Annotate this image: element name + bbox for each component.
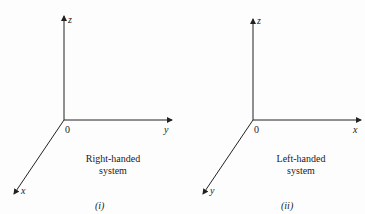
caption-line1: Left-handed bbox=[261, 153, 341, 165]
origin-label-right: 0 bbox=[254, 124, 259, 135]
caption-left-handed: Left-handed system bbox=[261, 153, 341, 177]
x-axis-label-left: x bbox=[21, 185, 25, 196]
caption-line2: system bbox=[261, 165, 341, 177]
z-axis-label-left: z bbox=[68, 14, 72, 25]
x-axis-label-right: x bbox=[353, 124, 357, 135]
origin-label-left: 0 bbox=[65, 124, 70, 135]
sublabel-i: (i) bbox=[95, 200, 104, 211]
caption-right-handed: Right-handed system bbox=[73, 153, 153, 177]
sublabel-ii: (ii) bbox=[281, 200, 293, 211]
caption-line1: Right-handed bbox=[73, 153, 153, 165]
y-axis-label-left: y bbox=[164, 124, 168, 135]
axes-drawing bbox=[0, 0, 365, 214]
x-axis-left bbox=[14, 120, 64, 194]
y-axis-label-right: y bbox=[210, 185, 214, 196]
coordinate-systems-figure: z y x 0 Right-handed system (i) z x y 0 … bbox=[0, 0, 365, 214]
caption-line2: system bbox=[73, 165, 153, 177]
y-axis-right bbox=[203, 120, 253, 194]
z-axis-label-right: z bbox=[257, 15, 261, 26]
